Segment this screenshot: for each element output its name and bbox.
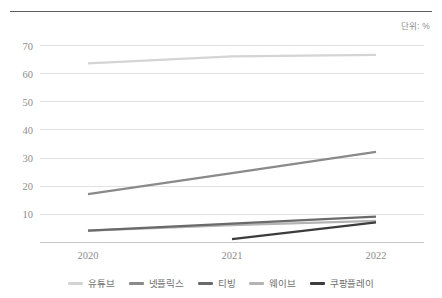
y-axis-tick-label: 50 — [23, 97, 34, 108]
legend-swatch-icon — [129, 282, 144, 285]
legend-item-label: 유튜브 — [88, 276, 114, 290]
series-line-티빙 — [88, 217, 376, 231]
legend-item[interactable]: 유튜브 — [68, 276, 114, 290]
legend-swatch-icon — [249, 282, 264, 285]
line-chart-svg: 10203040506070202020212022 — [0, 0, 442, 298]
y-axis-tick-label: 10 — [23, 209, 34, 220]
chart-container: 단위: % 10203040506070202020212022 유튜브넷플릭스… — [0, 0, 442, 298]
y-axis-tick-label: 70 — [23, 41, 34, 52]
y-axis-tick-label: 40 — [23, 125, 34, 136]
legend-item-label: 넷플릭스 — [149, 276, 184, 290]
legend-item-label: 웨이브 — [269, 276, 295, 290]
legend-item[interactable]: 티빙 — [198, 276, 236, 290]
legend-item[interactable]: 쿠팡플레이 — [310, 276, 374, 290]
legend-swatch-icon — [310, 282, 325, 285]
legend-swatch-icon — [68, 282, 83, 285]
legend-item[interactable]: 웨이브 — [249, 276, 295, 290]
series-line-유튜브 — [88, 55, 376, 63]
y-axis-tick-label: 60 — [23, 69, 34, 80]
legend-item[interactable]: 넷플릭스 — [129, 276, 184, 290]
chart-legend: 유튜브넷플릭스티빙웨이브쿠팡플레이 — [0, 276, 442, 290]
legend-item-label: 쿠팡플레이 — [330, 276, 374, 290]
x-axis-tick-label: 2021 — [222, 250, 243, 261]
y-axis-tick-label: 30 — [23, 153, 34, 164]
plot-area: 10203040506070202020212022 — [0, 0, 442, 298]
legend-item-label: 티빙 — [218, 276, 236, 290]
x-axis-tick-label: 2022 — [366, 250, 387, 261]
legend-swatch-icon — [198, 282, 213, 285]
x-axis-tick-label: 2020 — [78, 250, 99, 261]
y-axis-tick-label: 20 — [23, 181, 34, 192]
